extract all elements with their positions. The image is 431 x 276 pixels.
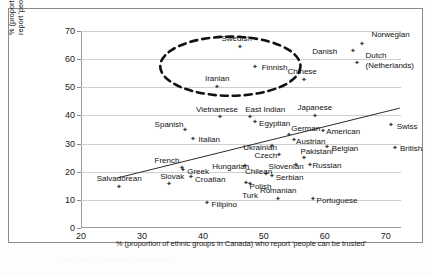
data-point-marker xyxy=(301,79,306,84)
footer-artifact-text: ······ ··· ···· ·········· ············ xyxy=(60,256,370,266)
data-point-marker xyxy=(182,129,187,134)
data-point-marker xyxy=(204,202,209,207)
data-point-label: Spanish xyxy=(155,121,184,129)
data-point-label: Italian xyxy=(199,136,220,144)
data-point-label: Slovak xyxy=(160,173,184,181)
data-point-label: Filipino xyxy=(212,201,237,209)
data-point-marker xyxy=(214,86,219,91)
data-point-label: Salvadorean xyxy=(97,175,142,183)
data-point-label: American xyxy=(326,128,360,136)
data-point-label: British xyxy=(400,145,422,153)
data-point-label: Austrian xyxy=(296,138,325,146)
data-point-label: Russian xyxy=(313,162,342,170)
data-point-marker xyxy=(359,43,364,48)
data-point-marker xyxy=(252,66,257,71)
y-tick-mark xyxy=(77,144,81,145)
y-tick-label: 20 xyxy=(65,167,75,176)
y-tick-mark xyxy=(77,31,81,32)
data-point-marker xyxy=(116,186,121,191)
y-tick-label: 0 xyxy=(70,224,75,233)
data-point-label: Dutch xyxy=(366,52,387,60)
data-point-label: French xyxy=(155,157,180,165)
data-point-label: Finnish xyxy=(262,64,288,72)
y-tick-label: 30 xyxy=(65,139,75,148)
y-tick-mark xyxy=(77,200,81,201)
data-point-label: Croatian xyxy=(195,176,225,184)
data-point-marker xyxy=(188,176,193,181)
x-axis-label: % (proportion of ethnic groups in Canada… xyxy=(81,240,401,249)
y-tick-label: 60 xyxy=(65,55,75,64)
data-point-label: Czech xyxy=(254,152,277,160)
y-tick-label: 10 xyxy=(65,195,75,204)
scatter-plot-figure: % (proportion of ethnic groups' countrie… xyxy=(0,0,431,276)
y-tick-mark xyxy=(77,228,81,229)
data-point-marker xyxy=(237,46,242,51)
data-point-marker xyxy=(291,139,296,144)
data-point-label: Vietnamese xyxy=(196,106,238,114)
data-point-marker xyxy=(307,164,312,169)
data-point-marker xyxy=(166,183,171,188)
data-point-marker xyxy=(310,198,315,203)
data-point-label: German xyxy=(291,125,320,133)
data-point-label: Norwegian xyxy=(371,31,409,39)
data-point-marker xyxy=(275,198,280,203)
data-point-label: Danish xyxy=(312,48,337,56)
plot-area: NorwegianDanishDutch(Netherlands)Swedish… xyxy=(81,31,401,228)
data-point-marker xyxy=(269,175,274,180)
data-point-label: Chilean xyxy=(245,168,272,176)
data-point-label: East Indian xyxy=(245,106,285,114)
data-point-marker xyxy=(312,115,317,120)
y-tick-label: 70 xyxy=(65,27,75,36)
y-tick-mark xyxy=(77,115,81,116)
y-axis-label: % (proportion of ethnic groups' countrie… xyxy=(7,0,26,35)
y-tick-label: 40 xyxy=(65,111,75,120)
y-tick-mark xyxy=(77,172,81,173)
data-point-marker xyxy=(320,130,325,135)
data-point-label: Serbian xyxy=(276,174,304,182)
y-tick-label: 50 xyxy=(65,83,75,92)
data-point-label: Belgian xyxy=(332,145,359,153)
data-point-label: Pakistani xyxy=(300,148,332,156)
data-point-marker xyxy=(388,124,393,129)
data-point-marker xyxy=(217,116,222,121)
data-point-label: Portuguese xyxy=(317,197,358,205)
y-tick-mark xyxy=(77,87,81,88)
data-point-label: Swedish xyxy=(221,35,251,43)
data-point-marker xyxy=(190,138,195,143)
data-point-marker xyxy=(247,183,252,188)
data-point-marker xyxy=(354,62,359,67)
data-point-label: Hungarian xyxy=(212,163,249,171)
data-point-label: Swiss xyxy=(397,123,418,131)
data-point-label: Turk xyxy=(242,192,258,200)
data-point-label: Slovenian xyxy=(269,163,304,171)
data-point-label: Romanian xyxy=(260,187,296,195)
data-point-label: Japanese xyxy=(297,104,332,112)
data-point-marker xyxy=(392,147,397,152)
data-point-label: Chinese xyxy=(287,68,316,76)
data-point-marker xyxy=(350,50,355,55)
y-tick-mark xyxy=(77,59,81,60)
data-point-marker xyxy=(252,121,257,126)
data-point-label: Iranian xyxy=(205,75,229,83)
chart-frame: % (proportion of ethnic groups' countrie… xyxy=(8,8,423,243)
data-point-label: Egyptian xyxy=(259,120,290,128)
data-point-label: (Netherlands) xyxy=(366,62,414,70)
